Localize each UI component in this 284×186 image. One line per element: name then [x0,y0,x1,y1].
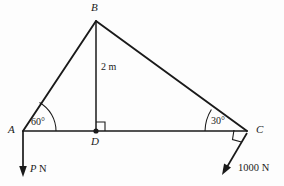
force-arrow-p-head [19,166,27,177]
joint-marker-d [93,128,98,133]
angle-label-c: 30° [211,116,225,126]
angle-label-a: 60° [31,117,45,127]
vertex-label-c: C [256,124,263,135]
vertex-label-b: B [91,2,98,13]
vertex-label-a: A [8,124,15,135]
force-arrow-1000-head [222,163,231,175]
force-diagram: A B C D 60° 30° 2 m P N 1000 N [0,0,284,186]
member-ab [23,21,96,131]
vertex-label-d: D [91,136,99,147]
dimension-label-bd: 2 m [101,62,116,72]
force-label-p: P N [30,164,47,175]
diagram-canvas [0,0,284,186]
force-label-1000: 1000 N [238,163,269,174]
force-label-p-unit: N [36,163,46,174]
